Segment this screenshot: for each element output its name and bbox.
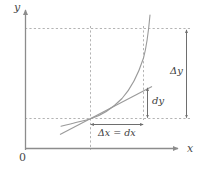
x-axis-label: x: [187, 143, 193, 154]
function-curve: [61, 15, 150, 126]
delta-y-label: Δy: [170, 66, 183, 76]
differential-figure: y x 0 Δy dy Δx = dx: [0, 0, 205, 172]
y-axis-label: y: [14, 2, 20, 13]
figure-canvas: [0, 0, 205, 172]
delta-x-equals-dx-label: Δx = dx: [98, 128, 136, 138]
origin-label: 0: [19, 152, 26, 163]
dy-label: dy: [152, 96, 164, 106]
